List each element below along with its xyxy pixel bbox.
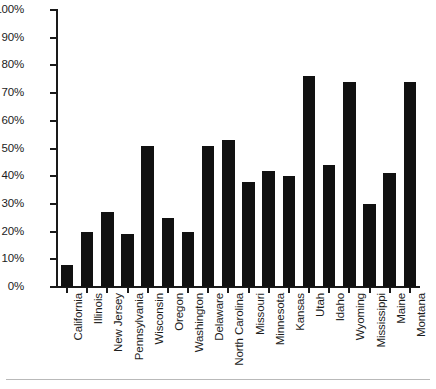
x-axis-tick-mark xyxy=(187,288,189,293)
y-axis-tick-label: 20% xyxy=(2,224,24,238)
x-axis-tick-mark xyxy=(288,288,290,293)
x-axis-tick-mark xyxy=(167,288,169,293)
x-axis-label: Pennsylvania xyxy=(133,293,145,360)
bar-column xyxy=(343,10,356,287)
bar-column xyxy=(262,10,275,287)
x-axis-label: Wisconsin xyxy=(153,293,165,345)
y-axis-tick-label: 100% xyxy=(0,2,24,16)
x-axis-label: Mississippi xyxy=(375,293,387,348)
x-axis-tick-mark xyxy=(369,288,371,293)
y-axis-tick-label: 10% xyxy=(2,251,24,265)
bar-column xyxy=(222,10,235,287)
x-axis-label: Wyoming xyxy=(354,293,366,340)
x-axis-tick-mark xyxy=(106,288,108,293)
bar-column xyxy=(61,10,74,287)
bar xyxy=(242,182,255,287)
y-axis-tick-label: 70% xyxy=(2,85,24,99)
bar-column xyxy=(202,10,215,287)
x-axis-label: New Jersey xyxy=(112,293,124,352)
x-axis-label: Missouri xyxy=(254,293,266,335)
bar-column xyxy=(283,10,296,287)
x-axis-tick-mark xyxy=(308,288,310,293)
bar-column xyxy=(363,10,376,287)
bar xyxy=(81,232,94,287)
y-axis-tick-label: 90% xyxy=(2,30,24,44)
x-axis-tick-mark xyxy=(127,288,129,293)
bar xyxy=(61,265,74,287)
x-axis-label: Minnesota xyxy=(274,293,286,345)
x-axis-tick-mark xyxy=(348,288,350,293)
x-axis-label: North Carolina xyxy=(233,293,245,366)
y-axis-tick-label: 30% xyxy=(2,196,24,210)
x-axis-label: Maine xyxy=(395,293,407,324)
bar-column xyxy=(242,10,255,287)
bar-column xyxy=(162,10,175,287)
bar-column xyxy=(141,10,154,287)
y-axis-tick-label: 0% xyxy=(8,279,24,293)
x-axis-tick-mark xyxy=(248,288,250,293)
bar-column xyxy=(81,10,94,287)
bar xyxy=(323,165,336,287)
x-axis-label: Oregon xyxy=(173,293,185,331)
x-axis-label: Washington xyxy=(193,293,205,352)
x-axis-label: California xyxy=(72,293,84,341)
x-axis-tick-mark xyxy=(227,288,229,293)
bar-column xyxy=(182,10,195,287)
x-axis-tick-mark xyxy=(207,288,209,293)
bar-column xyxy=(404,10,417,287)
x-axis-tick-mark xyxy=(86,288,88,293)
x-axis-label: Illinois xyxy=(92,293,104,324)
x-axis-label: Utah xyxy=(314,293,326,317)
x-axis-label: Delaware xyxy=(213,293,225,341)
x-axis-label: Montana xyxy=(415,293,427,337)
bar xyxy=(404,82,417,287)
bar xyxy=(222,140,235,287)
bar xyxy=(162,218,175,287)
plot-area: 0%10%20%30%40%50%60%70%80%90%100% Califo… xyxy=(0,0,436,300)
x-axis-label: Kansas xyxy=(294,293,306,331)
bar-column xyxy=(303,10,316,287)
bar xyxy=(202,146,215,287)
x-axis-tick-mark xyxy=(268,288,270,293)
y-axis-tick-label: 60% xyxy=(2,113,24,127)
bar xyxy=(343,82,356,287)
x-axis-tick-mark xyxy=(66,288,68,293)
bar-column xyxy=(121,10,134,287)
bar-column xyxy=(383,10,396,287)
y-axis-tick-label: 40% xyxy=(2,168,24,182)
footer-divider xyxy=(6,379,430,380)
bar xyxy=(141,146,154,287)
bar-column xyxy=(101,10,114,287)
bar xyxy=(182,232,195,287)
bar-column xyxy=(323,10,336,287)
bar xyxy=(262,171,275,287)
x-axis-tick-mark xyxy=(328,288,330,293)
bar xyxy=(383,173,396,287)
bar xyxy=(303,76,316,287)
x-axis-tick-mark xyxy=(409,288,411,293)
x-axis-tick-mark xyxy=(389,288,391,293)
x-axis-tick-mark xyxy=(147,288,149,293)
x-axis-label: Idaho xyxy=(334,293,346,321)
bar xyxy=(283,176,296,287)
y-axis-tick-label: 50% xyxy=(2,141,24,155)
y-axis-tick-label: 80% xyxy=(2,57,24,71)
bar xyxy=(121,234,134,287)
bar-chart-figure: 0%10%20%30%40%50%60%70%80%90%100% Califo… xyxy=(0,0,436,389)
bar-series xyxy=(57,10,420,287)
bar xyxy=(363,204,376,287)
bar xyxy=(101,212,114,287)
